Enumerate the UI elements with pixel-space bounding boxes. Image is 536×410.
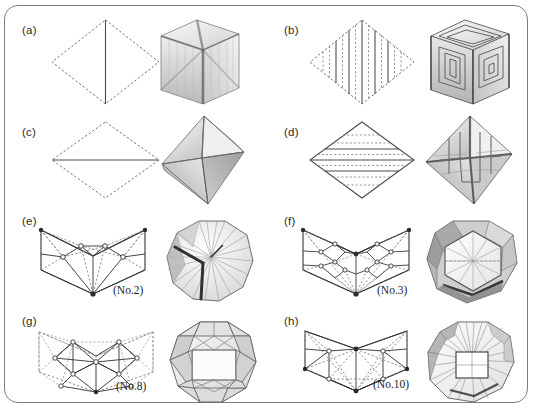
panel-g-caption: (No.8) [116,380,146,392]
panel-a-label: (a) [22,24,37,36]
panel-b-label: (b) [284,24,299,36]
panel-f-caption: (No.3) [377,284,407,296]
panel-d-label: (d) [284,126,299,138]
panel-h-caption: (No.10) [373,378,409,390]
net-b-creases-solid [336,20,388,104]
panel-a-solid [147,14,251,112]
panel-f-solid [423,217,523,309]
panel-c-label: (c) [22,126,36,138]
net-g-corner-dots [94,390,98,394]
panel-e-caption: (No.2) [113,284,143,296]
net-d-creases-solid [310,149,414,171]
panel-f-label: (f) [284,215,295,227]
panel-h-solid [424,318,522,408]
panel-b-net [306,16,418,108]
panel-d-net [306,118,418,203]
panel-d-solid [416,112,522,208]
panel-c-solid [150,112,254,208]
panel-e-solid [163,217,261,309]
figure-plate: (a) [0,0,536,410]
panel-c-net [48,118,163,203]
panel-g-solid [166,318,262,408]
panel-b-solid [415,14,523,112]
panel-a-net [48,16,163,108]
